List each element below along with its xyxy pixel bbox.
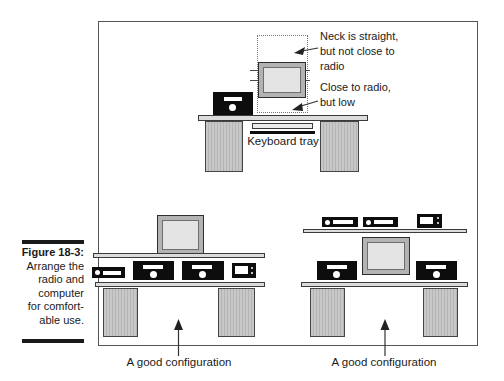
figure-18-3: Figure 18-3: Arrange the radio and compu… [0,0,504,381]
radio [213,92,253,115]
display-unit-screen [420,217,433,224]
radio [416,261,457,280]
radio-knob [333,271,340,278]
monitor-screen [263,67,301,93]
accessory-knob [366,220,371,225]
accessory-unit [363,217,398,227]
display-unit-dot [251,267,253,269]
accessory-slot [374,220,393,224]
accessory-unit [92,267,125,278]
display-unit-dot [437,222,439,224]
monitor [157,215,204,255]
radio-knob [150,271,157,278]
figure-caption-title: Figure 18-3: [6,246,84,260]
monitor-screen [367,242,405,270]
keyboard-tray [252,123,313,129]
accessory-slot [103,271,121,275]
annotation-close-low: Close to radio, but low [320,80,425,110]
radio-slot [327,265,347,269]
annotation-neck-straight: Neck is straight, but not close to radio [320,29,425,74]
desk-leg [103,288,138,337]
equipment-shelf [303,229,467,233]
figure-caption: Figure 18-3: Arrange the radio and compu… [6,246,84,327]
desk-leg [310,288,345,337]
radio-knob [199,271,206,278]
display-unit-screen [235,266,248,274]
caption-top-rule [22,240,84,244]
accessory-knob [95,270,100,275]
radio-slot [426,265,446,269]
display-unit-dot [437,217,439,219]
figure-caption-body: Arrange the radio and computer for comfo… [6,260,84,328]
monitor [362,237,410,275]
radio-slot [192,265,212,269]
accessory-unit [322,217,358,227]
keyboard-tray-label: Keyboard tray [233,135,333,147]
radio-slot [224,97,242,101]
desk-leg [218,288,255,337]
equipment-shelf [93,253,265,258]
display-unit [232,263,256,278]
keyboard-tray-rail [250,131,315,134]
desk-surface-left [95,282,265,287]
good-configuration-label-left: A good configuration [119,356,239,368]
display-unit [417,214,442,228]
radio-knob [433,271,440,278]
radio-slot [143,265,163,269]
monitor-low-position [258,62,306,98]
radio [317,261,357,280]
desk-surface-right [301,282,468,287]
desk-leg [423,288,458,337]
caption-bottom-rule [22,339,84,343]
radio-knob [229,104,236,111]
monitor-screen [162,220,199,250]
display-unit-dot [251,272,253,274]
accessory-knob [325,220,330,225]
radio [182,261,224,280]
good-configuration-label-right: A good configuration [324,356,444,368]
accessory-slot [333,220,353,224]
radio [133,261,174,280]
